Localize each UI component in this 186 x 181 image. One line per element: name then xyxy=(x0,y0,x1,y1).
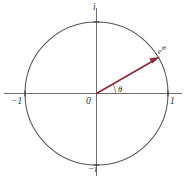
label-real-positive-one: 1 xyxy=(170,97,175,107)
label-e-i-theta: eiθ xyxy=(158,46,166,56)
label-real-negative-one: −1 xyxy=(11,97,22,107)
vector-e-i-theta xyxy=(97,60,156,94)
label-imaginary-positive: i xyxy=(93,3,96,13)
label-angle-theta: θ xyxy=(118,85,122,94)
label-origin: 0 xyxy=(86,97,91,107)
angle-arc xyxy=(113,84,116,94)
unit-circle-figure: i −i −1 1 0 θ eiθ xyxy=(0,0,186,181)
label-imaginary-negative: −i xyxy=(88,165,97,175)
unit-circle-svg xyxy=(0,0,186,181)
label-e-i-theta-exponent: iθ xyxy=(162,45,166,51)
